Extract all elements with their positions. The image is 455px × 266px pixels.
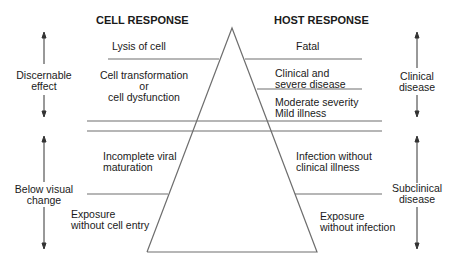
label-lysis-of-cell: Lysis of cell [112,41,166,52]
label-moderate-mild: Moderate severity Mild illness [275,97,358,119]
host-response-header: HOST RESPONSE [274,15,369,26]
label-exposure-without-infection: Exposure without infection [320,211,395,233]
cell-response-header: CELL RESPONSE [96,15,189,26]
label-line: effect [4,81,84,92]
label-fatal: Fatal [296,41,319,52]
label-exposure-without-cell-entry: Exposure without cell entry [71,209,149,231]
label-line: Mild illness [275,108,358,119]
label-line: without infection [320,222,395,233]
label-line: disease [387,82,447,93]
label-line: clinical illness [296,162,372,173]
label-clinical-severe: Clinical and severe disease [275,68,346,90]
label-line: cell dysfunction [98,92,190,103]
label-line: disease [382,194,452,205]
label-incomplete-viral-maturation: Incomplete viral maturation [103,151,177,173]
label-clinical-disease: Clinical disease [387,71,447,93]
label-discernable-effect: Discernable effect [4,70,84,92]
label-infection-without-illness: Infection without clinical illness [296,151,372,173]
label-line: severe disease [275,79,346,90]
pyramid-outline [147,28,317,252]
label-line: without cell entry [71,220,149,231]
label-below-visual-change: Below visual change [4,184,84,206]
label-cell-transformation: Cell transformation or cell dysfunction [98,70,190,103]
label-line: change [4,195,84,206]
label-line: maturation [103,162,177,173]
label-subclinical-disease: Subclinical disease [382,183,452,205]
